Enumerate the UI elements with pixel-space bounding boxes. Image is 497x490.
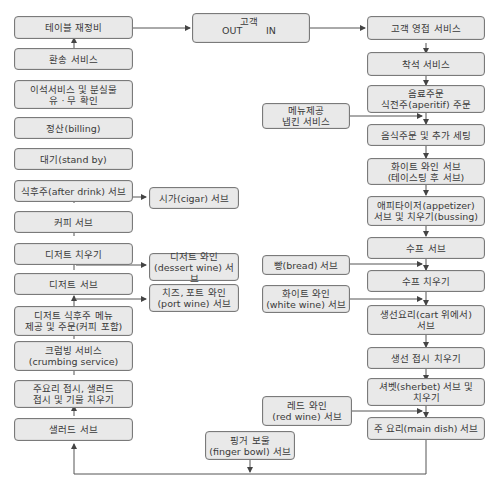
- node-salad-serve: 샐러드 서브: [14, 418, 133, 441]
- node-table-reset: 테이블 재정비: [14, 16, 133, 39]
- node-departure-lost-items: 이석서비스 및 분실물 유 · 무 확인: [14, 80, 133, 109]
- node-fish-plate-clear: 생선 접시 치우기: [367, 347, 485, 369]
- node-crumbing-service: 크럼빙 서비스 (crumbing service): [14, 341, 133, 371]
- node-greeting-service: 고객 영접 서비스: [367, 16, 485, 40]
- node-stand-by: 대기(stand by): [14, 148, 133, 170]
- node-billing: 정산(billing): [14, 117, 133, 139]
- node-dessert-serve: 디저트 서브: [14, 273, 133, 295]
- node-soup-clear: 수프 치우기: [367, 270, 485, 292]
- node-finger-bowl: 핑거 보울 (finger bowl) 서브: [205, 431, 295, 460]
- node-farewell-service: 환송 서비스: [14, 48, 133, 70]
- customer-in-label: IN: [266, 25, 276, 36]
- node-cheese-port-wine: 치즈, 포트 와인 (port wine) 서브: [149, 284, 239, 312]
- node-white-wine-tasting: 화이트 와인 서브 (테이스팅 후 서브): [367, 158, 485, 185]
- node-fish-serve: 생선요리(cart 위에서) 서브: [367, 305, 485, 335]
- node-food-order: 음식주문 및 추가 세팅: [367, 124, 485, 146]
- node-cigar: 시가(cigar) 서브: [149, 187, 239, 209]
- node-white-wine: 화이트 와인 (white wine) 서브: [262, 285, 350, 313]
- node-drink-order: 음료주문 식전주(aperitif) 주문: [367, 85, 485, 113]
- node-red-wine: 레드 와인 (red wine) 서브: [262, 396, 352, 426]
- node-bread: 빵(bread) 서브: [262, 255, 350, 275]
- node-soup-serve: 수프 서브: [367, 237, 485, 259]
- node-main-dish: 주 요리(main dish) 서브: [367, 417, 485, 440]
- node-main-plate-clear: 주요리 접시, 샐러드 접시 및 기물 치우기: [14, 380, 133, 408]
- node-dessert-menu-order: 디저트 식후주 메뉴 제공 및 주문(커피 포함): [14, 306, 133, 336]
- node-dessert-clear: 디저트 치우기: [14, 243, 133, 265]
- node-seating-service: 착석 서비스: [367, 52, 485, 76]
- customer-out-label: OUT: [222, 25, 242, 36]
- node-coffee-serve: 커피 서브: [14, 211, 133, 233]
- node-dessert-wine: 디저트 와인 (dessert wine) 서브: [149, 253, 239, 281]
- node-sherbet: 셔벳(sherbet) 서브 및 치우기: [367, 378, 485, 406]
- customer-title: 고객: [240, 14, 258, 28]
- node-menu-napkin: 메뉴제공 냅킨 서비스: [262, 103, 350, 129]
- node-after-drink: 식후주(after drink) 서브: [14, 180, 133, 202]
- node-appetizer: 애피타이저(appetizer) 서브 및 치우기(bussing): [367, 196, 485, 226]
